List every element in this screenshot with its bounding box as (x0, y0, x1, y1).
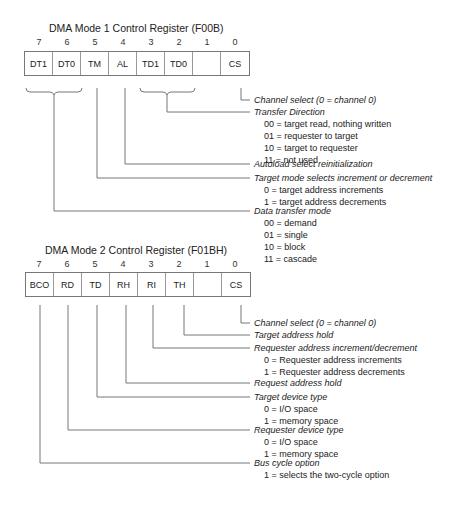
bit-number: 3 (137, 37, 165, 47)
register2-title: DMA Mode 2 Control Register (F01BH) (45, 244, 227, 256)
field-option: 0 = target address increments (254, 184, 432, 196)
leader-cs1 (241, 88, 250, 100)
field-heading: Request address hold (254, 377, 342, 389)
leader-al (125, 88, 250, 164)
field-request-address-hold: Request address hold (254, 377, 342, 389)
register1-bit-numbers: 7 6 5 4 3 2 1 0 (25, 37, 249, 47)
field-option: 10 = block (254, 241, 331, 253)
leader-th (184, 305, 250, 335)
leader-cs2 (241, 305, 250, 323)
field-target-address-hold: Target address hold (254, 329, 333, 341)
leader-td (167, 95, 250, 112)
leader-ri (153, 305, 250, 348)
field-option: 01 = requester to target (254, 130, 391, 142)
field-heading: Requester address increment/decrement (254, 342, 417, 354)
bit-cell-td1: TD1 (137, 52, 165, 75)
field-data-transfer-mode: Data transfer mode 00 = demand 01 = sing… (254, 205, 331, 265)
bit-number: 3 (137, 259, 165, 269)
bit-number: 6 (53, 259, 81, 269)
field-target-device-type: Target device type 0 = I/O space 1 = mem… (254, 391, 338, 427)
bit-number: 1 (193, 259, 221, 269)
bit-number: 6 (53, 37, 81, 47)
field-bus-cycle-option: Bus cycle option 1 = selects the two-cyc… (254, 457, 389, 481)
field-heading: Transfer Direction (254, 106, 391, 118)
bit-cell-cs: CS (222, 273, 250, 296)
field-option: 0 = I/O space (254, 403, 338, 415)
field-heading: Data transfer mode (254, 205, 331, 217)
bit-number: 7 (25, 37, 53, 47)
field-heading: Requester device type (254, 424, 344, 436)
field-heading: Target address hold (254, 329, 333, 341)
bit-cell-rh: RH (110, 273, 138, 296)
brace-dt (26, 88, 82, 95)
bit-number: 4 (109, 37, 137, 47)
bit-cell-reserved (194, 273, 222, 296)
field-option: 10 = target to requester (254, 142, 391, 154)
field-heading: Bus cycle option (254, 457, 389, 469)
field-heading: Target mode selects increment or decreme… (254, 172, 432, 184)
bit-number: 5 (81, 259, 109, 269)
bit-number: 0 (221, 37, 249, 47)
register1-bitfield: DT1 DT0 TM AL TD1 TD0 CS (24, 51, 250, 76)
bit-cell-rd: RD (54, 273, 82, 296)
leader-rh (126, 305, 250, 383)
field-option: 0 = Requester address increments (254, 354, 417, 366)
field-requester-device-type: Requester device type 0 = I/O space 1 = … (254, 424, 344, 460)
bit-cell-reserved (193, 52, 221, 75)
brace-td (140, 88, 195, 95)
bit-number: 2 (165, 259, 193, 269)
field-option: 11 = cascade (254, 253, 331, 265)
bit-number: 0 (221, 259, 249, 269)
field-channel-select-1: Channel select (0 = channel 0) (254, 94, 376, 106)
field-requester-address-incdec: Requester address increment/decrement 0 … (254, 342, 417, 378)
bit-number: 1 (193, 37, 221, 47)
bit-cell-al: AL (109, 52, 137, 75)
leader-rd (68, 305, 250, 430)
bit-cell-dt1: DT1 (25, 52, 53, 75)
field-autoload: Autoload select reinitialization (254, 158, 373, 170)
field-target-mode: Target mode selects increment or decreme… (254, 172, 432, 208)
field-channel-select-2: Channel select (0 = channel 0) (254, 317, 376, 329)
field-option: 0 = I/O space (254, 436, 344, 448)
field-option: 00 = demand (254, 217, 331, 229)
bit-cell-th: TH (166, 273, 194, 296)
field-option: 01 = single (254, 229, 331, 241)
field-heading: Target device type (254, 391, 338, 403)
bit-cell-bco: BCO (26, 273, 54, 296)
field-heading: Autoload select reinitialization (254, 158, 373, 170)
bit-cell-td: TD (82, 273, 110, 296)
field-option: 00 = target read, nothing written (254, 118, 391, 130)
leader-bco (40, 305, 250, 463)
field-heading: Channel select (0 = channel 0) (254, 317, 376, 329)
bit-number: 7 (25, 259, 53, 269)
register2-bit-numbers: 7 6 5 4 3 2 1 0 (25, 259, 249, 269)
bit-cell-td0: TD0 (165, 52, 193, 75)
bit-cell-ri: RI (138, 273, 166, 296)
bit-number: 5 (81, 37, 109, 47)
register2-bitfield: BCO RD TD RH RI TH CS (25, 272, 251, 297)
register1-title: DMA Mode 1 Control Register (F00B) (49, 22, 223, 34)
bit-cell-dt0: DT0 (53, 52, 81, 75)
bit-cell-cs: CS (221, 52, 249, 75)
bit-number: 4 (109, 259, 137, 269)
bit-cell-tm: TM (81, 52, 109, 75)
field-option: 1 = selects the two-cycle option (254, 469, 389, 481)
field-heading: Channel select (0 = channel 0) (254, 94, 376, 106)
bit-number: 2 (165, 37, 193, 47)
field-transfer-direction: Transfer Direction 00 = target read, not… (254, 106, 391, 166)
